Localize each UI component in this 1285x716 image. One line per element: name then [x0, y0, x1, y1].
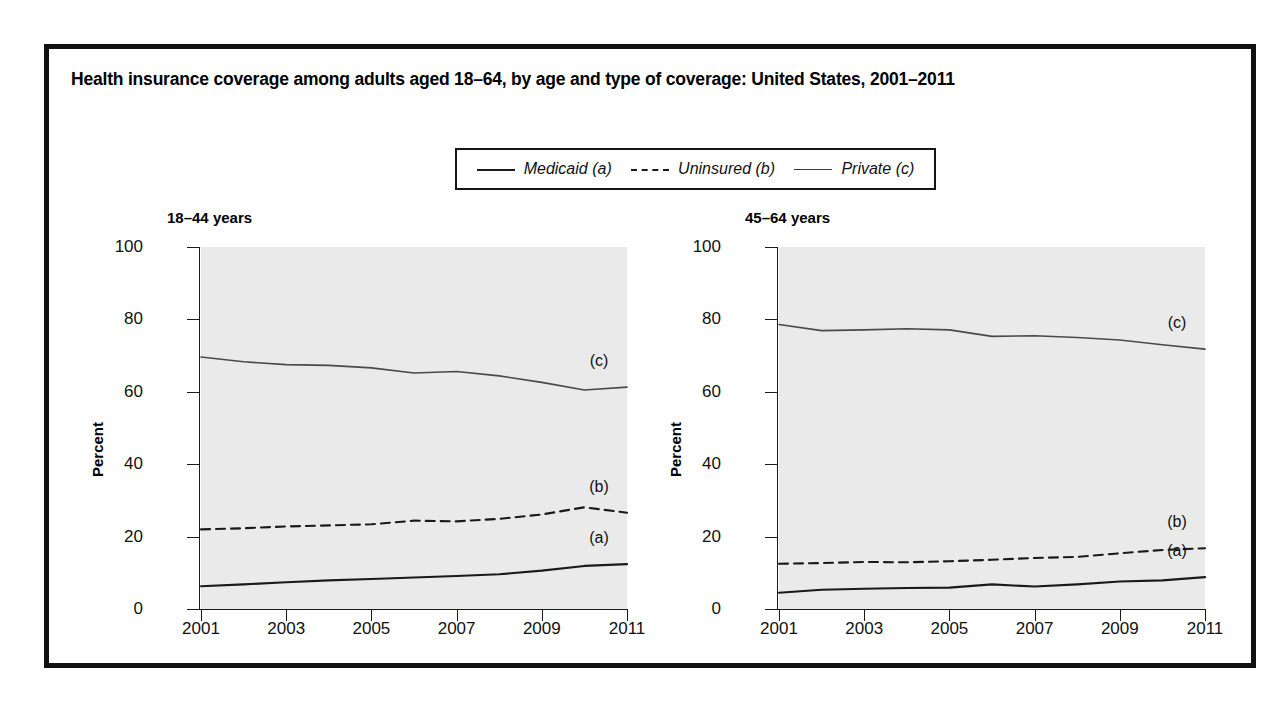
series-annotation: (c) — [1168, 314, 1187, 332]
panel-title-45-64: 45–64 years — [745, 209, 830, 226]
legend-entry-uninsured: Uninsured (b) — [631, 160, 775, 178]
x-tick-label: 2011 — [609, 619, 646, 639]
y-tick-mark — [187, 609, 199, 610]
y-tick-label: 60 — [661, 382, 721, 402]
x-tick-mark — [949, 609, 950, 621]
x-tick-label: 2011 — [1187, 619, 1224, 639]
legend-label-medicaid: Medicaid (a) — [524, 160, 612, 178]
y-tick-label: 80 — [83, 309, 143, 329]
y-axis-line-left — [199, 247, 200, 609]
x-tick-mark — [201, 609, 202, 621]
series-line — [201, 357, 627, 390]
x-tick-label: 2009 — [1101, 619, 1139, 639]
x-tick-mark — [457, 609, 458, 621]
series-line — [201, 507, 627, 529]
y-tick-mark — [765, 537, 777, 538]
y-tick-label: 60 — [83, 382, 143, 402]
x-tick-label: 2007 — [1016, 619, 1054, 639]
series-annotation: (b) — [589, 478, 609, 496]
series-line — [779, 548, 1205, 564]
y-tick-label: 20 — [661, 527, 721, 547]
y-tick-label: 40 — [83, 454, 143, 474]
x-tick-mark — [1035, 609, 1036, 621]
x-tick-label: 2001 — [182, 619, 220, 639]
y-tick-mark — [187, 537, 199, 538]
y-tick-mark — [765, 392, 777, 393]
dashed-line-icon — [631, 163, 669, 175]
x-tick-mark — [864, 609, 865, 621]
y-tick-label: 80 — [661, 309, 721, 329]
legend-entry-medicaid: Medicaid (a) — [477, 160, 612, 178]
legend-label-private: Private (c) — [841, 160, 914, 178]
x-tick-label: 2003 — [267, 619, 305, 639]
y-tick-mark — [187, 392, 199, 393]
plot-lines-left — [201, 247, 627, 609]
y-tick-mark — [765, 464, 777, 465]
legend-entry-private: Private (c) — [794, 160, 914, 178]
series-line — [779, 577, 1205, 593]
x-tick-label: 2003 — [845, 619, 883, 639]
figure-frame: Health insurance coverage among adults a… — [44, 44, 1256, 668]
panel-title-18-44: 18–44 years — [167, 209, 252, 226]
plot-wrap-right: 020406080100200120032005200720092011 (a)… — [735, 247, 1205, 619]
x-tick-mark — [542, 609, 543, 621]
y-tick-label: 0 — [661, 599, 721, 619]
series-line — [779, 324, 1205, 349]
y-tick-label: 100 — [661, 237, 721, 257]
x-axis-line-right — [777, 609, 1205, 610]
y-tick-mark — [187, 247, 199, 248]
x-tick-label: 2001 — [760, 619, 798, 639]
plot-lines-right — [779, 247, 1205, 609]
y-tick-label: 20 — [83, 527, 143, 547]
plot-wrap-left: 020406080100200120032005200720092011 (a)… — [157, 247, 627, 619]
x-tick-mark — [1205, 609, 1206, 621]
x-tick-mark — [286, 609, 287, 621]
x-tick-mark — [371, 609, 372, 621]
series-annotation: (c) — [590, 352, 609, 370]
y-axis-line-right — [777, 247, 778, 609]
x-tick-label: 2005 — [930, 619, 968, 639]
thin-line-icon — [794, 163, 832, 175]
x-tick-mark — [779, 609, 780, 621]
x-tick-label: 2005 — [352, 619, 390, 639]
y-tick-mark — [765, 609, 777, 610]
x-tick-mark — [627, 609, 628, 621]
series-line — [201, 564, 627, 586]
x-tick-label: 2007 — [438, 619, 476, 639]
legend-label-uninsured: Uninsured (b) — [678, 160, 775, 178]
series-annotation: (a) — [589, 529, 609, 547]
solid-line-icon — [477, 163, 515, 175]
y-tick-mark — [187, 319, 199, 320]
y-tick-mark — [765, 247, 777, 248]
series-annotation: (b) — [1167, 513, 1187, 531]
y-tick-mark — [765, 319, 777, 320]
y-tick-label: 0 — [83, 599, 143, 619]
y-tick-label: 100 — [83, 237, 143, 257]
x-tick-label: 2009 — [523, 619, 561, 639]
chart-legend: Medicaid (a) Uninsured (b) Private (c) — [455, 148, 936, 190]
x-axis-line-left — [199, 609, 627, 610]
y-tick-label: 40 — [661, 454, 721, 474]
x-tick-mark — [1120, 609, 1121, 621]
figure-title: Health insurance coverage among adults a… — [71, 69, 955, 90]
series-annotation: (a) — [1167, 542, 1187, 560]
y-tick-mark — [187, 464, 199, 465]
